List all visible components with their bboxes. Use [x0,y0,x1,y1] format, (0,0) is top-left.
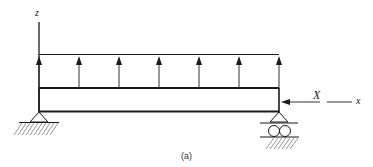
load-arrow-icon [236,56,242,88]
beam [39,88,279,112]
ground-hatch-icon [14,123,58,135]
figure-caption: (a) [181,152,192,161]
load-arrow-icon [116,56,122,88]
distributed-load-arrows [36,56,282,88]
pin-support-left [14,112,59,135]
x-axis-label: x [356,96,360,106]
load-arrow-icon [36,56,42,88]
load-arrow-icon [276,56,282,88]
axial-force-label: X [313,89,320,101]
ground-hatch-icon [266,138,298,149]
load-arrow-icon [156,56,162,88]
beam-diagram [0,0,373,167]
roller-icon [280,126,291,137]
load-arrow-icon [76,56,82,88]
roller-support-right [260,112,299,149]
roller-icon [269,126,280,137]
z-axis-label: z [35,8,39,18]
load-arrow-icon [196,56,202,88]
